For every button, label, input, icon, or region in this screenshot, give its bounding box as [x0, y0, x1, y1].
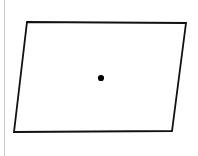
center-dot	[98, 75, 104, 81]
figure-canvas	[0, 0, 198, 156]
figure-svg	[0, 0, 198, 156]
